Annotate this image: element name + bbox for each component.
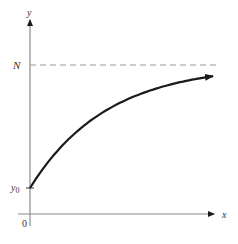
origin-label: 0 (22, 218, 27, 229)
growth-curve (30, 76, 213, 188)
initial-value-label: y0 (10, 182, 19, 195)
y-axis-label: y (26, 7, 32, 18)
x-axis-label: x (221, 209, 227, 220)
chart: y x N y0 0 (0, 0, 238, 244)
asymptote-label: N (12, 59, 21, 71)
